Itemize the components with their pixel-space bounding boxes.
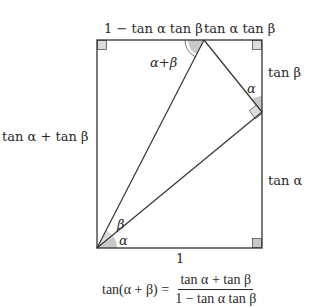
line-p-to-q [204, 40, 262, 112]
formula-numerator: tan α + tan β [178, 272, 253, 290]
right-angle-marker-top-left [98, 41, 107, 50]
geometry-figure [0, 0, 313, 308]
formula-lhs: tan(α + β) = [102, 282, 169, 298]
label-right-upper-segment: tan β [268, 66, 301, 79]
formula-fraction: tan α + tan β 1 − tan α tan β [173, 272, 258, 307]
label-angle-alpha-right: α [247, 82, 256, 95]
identity-formula: tan(α + β) = tan α + tan β 1 − tan α tan… [102, 272, 258, 307]
label-top-right-segment: tan α tan β [204, 22, 275, 35]
right-angle-marker-bottom-right [253, 239, 262, 248]
angle-alpha-plus-beta-arc [188, 40, 204, 54]
label-angle-alpha-bottom: α [119, 234, 128, 247]
line-o-to-p [97, 40, 204, 248]
right-angle-marker-top-right [253, 41, 262, 50]
diagram: 1 − tan α tan β tan α tan β tan β tan α … [0, 0, 313, 308]
label-bottom-side: 1 [176, 252, 184, 265]
formula-denominator: 1 − tan α tan β [173, 290, 258, 307]
label-angle-alpha-plus-beta: α+β [150, 56, 177, 69]
label-right-lower-segment: tan α [268, 174, 302, 187]
label-top-left-segment: 1 − tan α tan β [104, 22, 203, 35]
label-left-side: tan α + tan β [2, 130, 88, 143]
label-angle-beta-bottom: β [117, 218, 125, 231]
